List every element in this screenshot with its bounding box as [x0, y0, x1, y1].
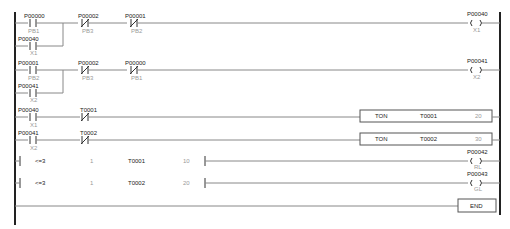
compare-block[interactable]: <=3 1 T0002 20: [15, 178, 205, 188]
contact-nc[interactable]: T0002: [80, 130, 98, 144]
contact-label: PB1: [131, 75, 143, 81]
contact-address: P00041: [18, 83, 39, 89]
contact-address: P00001: [125, 13, 146, 19]
ladder-diagram: P00000 PB1 P00040 X1 P00002 PB3 P00001 P…: [0, 0, 510, 229]
contact-label: X1: [30, 50, 38, 56]
rung-3[interactable]: P00040 X1 T0001 TON T0001 20: [15, 107, 500, 128]
function-operand: T0002: [420, 136, 438, 142]
contact-address: P00002: [78, 13, 99, 19]
function-operand: T0001: [420, 113, 438, 119]
compare-operator: <=3: [35, 180, 46, 186]
compare-size: 1: [90, 158, 94, 164]
output-coil[interactable]: P00042 RL: [467, 149, 488, 170]
rung-7[interactable]: END: [15, 199, 496, 212]
output-coil[interactable]: P00043 GL: [467, 171, 488, 192]
coil-label: GL: [474, 186, 483, 192]
end-label: END: [470, 203, 483, 209]
contact-nc[interactable]: T0001: [80, 107, 98, 121]
ton-function-block[interactable]: TON T0001 20: [360, 110, 492, 122]
contact-label: PB3: [82, 28, 94, 34]
rung-6[interactable]: <=3 1 T0002 20 P00043 GL: [15, 171, 500, 192]
output-coil[interactable]: P00041 X2: [467, 58, 488, 80]
rung-1[interactable]: P00000 PB1 P00040 X1 P00002 PB3 P00001 P…: [15, 11, 500, 56]
contact-address: T0002: [80, 130, 98, 136]
function-preset: 20: [475, 113, 482, 119]
compare-block[interactable]: <=3 1 T0001 10: [15, 156, 205, 166]
contact-address: P00040: [18, 36, 39, 42]
contact-label: PB1: [28, 28, 40, 34]
contact-address: P00002: [78, 60, 99, 66]
coil-address: P00041: [467, 58, 488, 64]
coil-address: P00040: [467, 11, 488, 17]
coil-label: RL: [474, 164, 482, 170]
contact-address: P00000: [125, 60, 146, 66]
compare-operand: T0001: [128, 158, 146, 164]
function-name: TON: [375, 136, 388, 142]
contact-label: PB3: [82, 75, 94, 81]
rung-4[interactable]: P00041 X2 T0002 TON T0002 30: [15, 130, 500, 151]
output-coil[interactable]: P00040 X1: [467, 11, 488, 33]
compare-operator: <=3: [35, 158, 46, 164]
contact-address: T0001: [80, 107, 98, 113]
contact-label: PB2: [131, 28, 143, 34]
coil-address: P00043: [467, 171, 488, 177]
contact-address: P00041: [18, 130, 39, 136]
contact-label: X1: [30, 122, 38, 128]
ton-function-block[interactable]: TON T0002 30: [360, 133, 492, 145]
compare-size: 1: [90, 180, 94, 186]
compare-value: 20: [183, 180, 190, 186]
coil-address: P00042: [467, 149, 488, 155]
end-instruction[interactable]: END: [458, 199, 496, 212]
compare-value: 10: [183, 158, 190, 164]
contact-address: P00001: [18, 60, 39, 66]
rung-5[interactable]: <=3 1 T0001 10 P00042 RL: [15, 149, 500, 170]
coil-label: X2: [473, 74, 481, 80]
contact-address: P00000: [24, 13, 45, 19]
compare-operand: T0002: [128, 180, 146, 186]
rung-2[interactable]: P00001 PB2 P00041 X2 P00002 PB3 P00000 P…: [15, 58, 500, 103]
function-preset: 30: [475, 136, 482, 142]
coil-label: X1: [473, 27, 481, 33]
function-name: TON: [375, 113, 388, 119]
contact-label: X2: [30, 145, 38, 151]
contact-label: PB2: [28, 75, 40, 81]
contact-label: X2: [30, 97, 38, 103]
contact-address: P00040: [18, 107, 39, 113]
